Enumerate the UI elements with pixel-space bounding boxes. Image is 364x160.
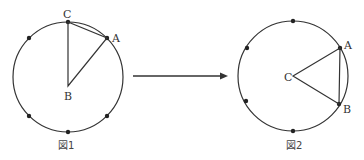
point xyxy=(245,46,249,50)
label-a-2: A xyxy=(343,39,353,52)
figure-1: C A B 図1 xyxy=(13,8,123,151)
label-c-1: C xyxy=(63,8,71,21)
triangle-abc-2 xyxy=(293,48,340,104)
point xyxy=(27,36,31,40)
point xyxy=(27,114,31,118)
point xyxy=(105,114,109,118)
point xyxy=(244,99,248,103)
point xyxy=(291,129,295,133)
label-c-2: C xyxy=(284,71,292,84)
label-b-1: B xyxy=(64,90,72,103)
caption-figure-1: 図1 xyxy=(58,140,74,151)
triangle-abc-1 xyxy=(68,22,107,86)
point xyxy=(291,19,295,23)
label-b-2: B xyxy=(343,103,351,116)
label-a-1: A xyxy=(111,32,121,45)
arrow-right-icon xyxy=(133,73,228,80)
figure-2: A B C 図2 xyxy=(238,19,353,151)
diagram-canvas: C A B 図1 A B C 図2 xyxy=(0,0,364,160)
caption-figure-2: 図2 xyxy=(286,140,302,151)
point xyxy=(66,130,70,134)
